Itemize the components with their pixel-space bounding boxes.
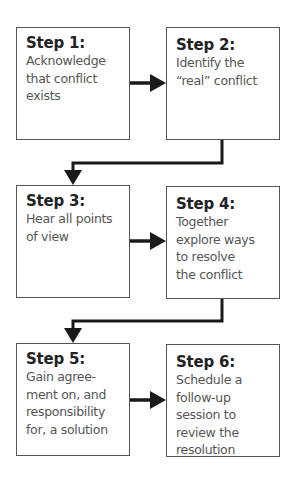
step-6-box: Step 6: Schedule a follow-up session to … [166,344,280,457]
step-1-title: Step 1: [26,34,123,52]
step-4-text: Together explore ways to resolve the con… [176,213,273,283]
step-5-text: Gain agree- ment on, and responsibility … [26,368,123,438]
arrow-step1-to-step2 [130,74,166,92]
step-5-box: Step 5: Gain agree- ment on, and respons… [16,343,130,456]
step-3-title: Step 3: [26,192,123,210]
arrow-step2-to-step3 [64,140,222,185]
step-1-text: Acknowledge that conflict exists [26,52,123,105]
step-6-title: Step 6: [176,353,273,371]
step-3-text: Hear all points of view [26,210,123,245]
step-4-title: Step 4: [176,195,273,213]
step-2-title: Step 2: [176,36,273,54]
arrow-step4-to-step5 [64,298,222,343]
step-2-text: Identify the “real” conflict [176,54,273,89]
step-4-box: Step 4: Together explore ways to resolve… [166,186,280,299]
step-3-box: Step 3: Hear all points of view [16,185,130,298]
step-2-box: Step 2: Identify the “real” conflict [166,27,280,140]
step-1-box: Step 1: Acknowledge that conflict exists [16,27,130,140]
arrow-step5-to-step6 [130,391,166,409]
step-6-text: Schedule a follow-up session to review t… [176,371,273,459]
arrow-step3-to-step4 [130,232,166,250]
step-5-title: Step 5: [26,350,123,368]
